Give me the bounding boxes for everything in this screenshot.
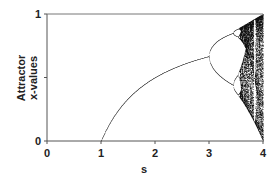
y-axis-label-line-2: x-values bbox=[27, 56, 39, 100]
x-tick-label: 0 bbox=[44, 147, 50, 159]
y-axis-label: Attractor x-values bbox=[15, 54, 39, 101]
x-tick-label: 3 bbox=[206, 147, 212, 159]
y-tick-label: 1 bbox=[35, 8, 41, 20]
y-axis-label-line-1: Attractor bbox=[15, 54, 27, 101]
x-ticks: 01234 bbox=[44, 141, 267, 159]
x-tick-label: 1 bbox=[98, 147, 104, 159]
bifurcation-chart: 01234 01 s Attractor x-values bbox=[0, 0, 278, 182]
x-axis-label: s bbox=[141, 163, 147, 175]
x-tick-label: 2 bbox=[152, 147, 158, 159]
attractor-points bbox=[101, 14, 264, 142]
y-tick-label: 0 bbox=[35, 135, 41, 147]
attractor-series bbox=[101, 14, 264, 142]
x-tick-label: 4 bbox=[260, 147, 267, 159]
